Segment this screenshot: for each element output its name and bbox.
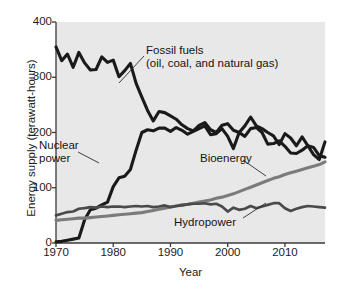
x-tick-label: 1970 (26, 247, 86, 259)
annotation-nuclear-power-line1: Nuclear (39, 139, 79, 152)
fossil-leader-line (119, 56, 144, 83)
annotation-nuclear-power: Nuclear power (39, 139, 79, 164)
y-tick-label: 400 (33, 16, 52, 28)
x-tick-label: 2000 (198, 247, 258, 259)
annotation-fossil-fuels-line1: Fossil fuels (146, 44, 278, 57)
annotation-hydropower: Hydropower (174, 216, 236, 229)
annotation-nuclear-power-line2: power (39, 152, 79, 165)
x-tick-label: 1980 (83, 247, 143, 259)
x-axis-title: Year (56, 266, 325, 278)
y-axis-title: Energy supply (terawatt-hours) (25, 33, 37, 243)
annotation-bioenergy: Bioenergy (200, 152, 252, 165)
series-group (56, 47, 325, 242)
hydropower-leader-line (243, 203, 266, 218)
nuclear-leader-line (78, 152, 99, 163)
x-tick-label: 1990 (140, 247, 200, 259)
annotation-fossil-fuels-line2: (oil, coal, and natural gas) (146, 57, 278, 70)
energy-supply-chart-figure: 0100200300400 19701980199020002010 Energ… (0, 0, 343, 290)
annotation-fossil-fuels: Fossil fuels (oil, coal, and natural gas… (146, 44, 278, 69)
series-line-bioenergy (56, 162, 325, 221)
x-tick-label: 2010 (255, 247, 315, 259)
